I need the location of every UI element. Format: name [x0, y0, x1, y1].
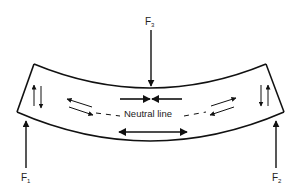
right-shear-arrows-icon: [261, 85, 268, 106]
f3-label: F3: [145, 17, 154, 28]
beam-diagram: [0, 0, 301, 191]
f2-label: F2: [272, 173, 281, 184]
right-diagonal-arrows-icon: [210, 98, 236, 115]
left-diagonal-arrows-icon: [67, 99, 93, 115]
neutral-line-label: Neutral line: [124, 108, 172, 119]
f1-label: F1: [21, 173, 30, 184]
left-shear-arrows-icon: [34, 85, 41, 108]
